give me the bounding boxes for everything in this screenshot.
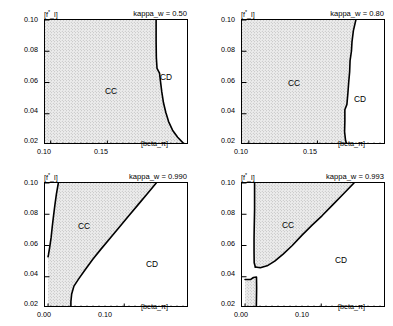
panel-top-right-parameter-label: kappa_w = 0.80 — [330, 9, 384, 18]
panel-bottom-left-ytick-1: 0.08 — [6, 208, 38, 217]
panel-bottom-left: [f*_l] kappa_w = 0.990 0.10 0.08 0.06 0.… — [0, 163, 196, 326]
panel-top-left-cc-region — [45, 20, 186, 144]
panel-bottom-left-cc-label: CC — [74, 221, 94, 231]
panel-bottom-left-x-axis-label: [beta_π] — [141, 302, 168, 311]
panel-bottom-right-ytick-0: 0.10 — [203, 178, 235, 187]
panel-bottom-right-x-axis-label: [beta_π] — [338, 302, 365, 311]
panel-bottom-left-y-axis-label: [f*_l] — [44, 172, 58, 182]
panel-bottom-right-lower-cc-island — [245, 277, 257, 307]
panel-bottom-left-cd-label: CD — [142, 259, 162, 269]
panel-top-right-xtick-1: 0.15 — [296, 147, 324, 156]
panel-bottom-right-ytick-1: 0.08 — [203, 208, 235, 217]
panel-bottom-right: [f*_l] kappa_w = 0.993 0.10 0.08 0.06 0.… — [197, 163, 393, 326]
panel-bottom-left-ytick-4: 0.02 — [6, 299, 38, 308]
panel-bottom-right-ytick-2: 0.06 — [203, 239, 235, 248]
panel-bottom-left-parameter-label: kappa_w = 0.990 — [129, 172, 187, 181]
panel-top-right-ytick-3: 0.04 — [203, 106, 235, 115]
panel-top-left: [f*_l] kappa_w = 0.50 0.10 0.08 0.06 0.0… — [0, 0, 196, 163]
panel-bottom-right-xtick-0: 0.00 — [227, 310, 255, 319]
panel-bottom-right-xtick-1: 0.10 — [288, 310, 316, 319]
panel-bottom-left-ytick-3: 0.04 — [6, 269, 38, 278]
panel-top-left-cd-label: CD — [156, 72, 176, 82]
panel-top-right-plot-svg — [242, 20, 385, 144]
panel-top-right-plot-area: CC CD — [241, 19, 385, 144]
panel-bottom-right-plot-svg — [242, 183, 385, 307]
panel-top-left-y-axis-label: [f*_l] — [44, 9, 58, 19]
panel-top-right-y-axis-label: [f*_l] — [241, 9, 255, 19]
panel-bottom-left-ytick-0: 0.10 — [6, 178, 38, 187]
panel-top-right-x-axis-label: [beta_π] — [338, 139, 365, 148]
panel-bottom-right-parameter-label: kappa_w = 0.993 — [326, 172, 384, 181]
panel-top-left-x-axis-label: [beta_π] — [141, 139, 168, 148]
phase-diagram-figure: [f*_l] kappa_w = 0.50 0.10 0.08 0.06 0.0… — [0, 0, 393, 326]
panel-top-left-xtick-1: 0.15 — [87, 147, 115, 156]
panel-bottom-right-y-axis-label: [f*_l] — [241, 172, 255, 182]
panel-bottom-left-ytick-2: 0.06 — [6, 239, 38, 248]
panel-top-left-cc-label: CC — [101, 86, 121, 96]
panel-top-left-xtick-0: 0.10 — [30, 147, 58, 156]
panel-bottom-right-cd-label: CD — [331, 255, 351, 265]
panel-top-right-ytick-4: 0.02 — [203, 136, 235, 145]
panel-top-right: [f*_l] kappa_w = 0.80 0.10 0.08 0.06 0.0… — [197, 0, 393, 163]
panel-top-right-xtick-0: 0.10 — [227, 147, 255, 156]
panel-top-left-parameter-label: kappa_w = 0.50 — [133, 9, 187, 18]
panel-top-left-ytick-0: 0.10 — [6, 15, 38, 24]
panel-bottom-left-plot-area: CC CD — [44, 182, 188, 307]
panel-top-left-ytick-2: 0.06 — [6, 76, 38, 85]
panel-top-left-ytick-1: 0.08 — [6, 45, 38, 54]
panel-top-left-ytick-3: 0.04 — [6, 106, 38, 115]
panel-bottom-left-xtick-0: 0.00 — [30, 310, 58, 319]
panel-top-right-ytick-0: 0.10 — [203, 15, 235, 24]
panel-top-left-ytick-4: 0.02 — [6, 136, 38, 145]
panel-bottom-left-plot-svg — [45, 183, 188, 307]
panel-top-left-plot-area: CC CD — [44, 19, 188, 144]
panel-bottom-right-plot-area: CC CD — [241, 182, 385, 307]
panel-bottom-right-cc-label: CC — [278, 220, 298, 230]
panel-top-right-ytick-2: 0.06 — [203, 76, 235, 85]
panel-bottom-left-xtick-1: 0.10 — [91, 310, 119, 319]
panel-bottom-right-ytick-4: 0.02 — [203, 299, 235, 308]
panel-top-right-ytick-1: 0.08 — [203, 45, 235, 54]
panel-top-left-plot-svg — [45, 20, 188, 144]
panel-top-right-cd-label: CD — [350, 94, 370, 104]
panel-bottom-right-ytick-3: 0.04 — [203, 269, 235, 278]
panel-top-right-cc-label: CC — [284, 78, 304, 88]
